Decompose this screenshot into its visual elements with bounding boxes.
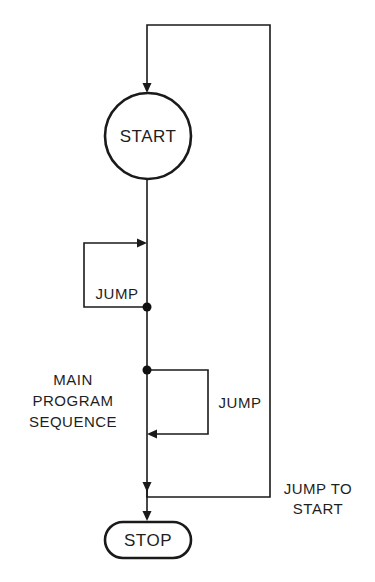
- start-label: START: [120, 127, 177, 146]
- backward-jump-arrow-icon: [137, 239, 147, 248]
- forward-jump-edge: [147, 370, 208, 434]
- jump-to-start-line-2: START: [293, 500, 343, 517]
- main-sequence-line-2: PROGRAM: [32, 392, 113, 409]
- arrow-into-stop-icon: [143, 511, 152, 521]
- stop-label: STOP: [124, 531, 172, 550]
- backward-jump-label: JUMP: [96, 285, 139, 302]
- main-sequence-line-3: SEQUENCE: [29, 413, 117, 430]
- forward-jump-arrow-icon: [147, 430, 157, 439]
- flow-diagram: START JUMP JUMP MAIN PROGRAM SEQUENCE JU…: [0, 0, 375, 582]
- arrow-into-start-icon: [143, 83, 152, 93]
- stop-node: STOP: [105, 522, 191, 558]
- jump-origin-dot-2: [143, 366, 152, 375]
- jump-to-start-line-1: JUMP TO: [284, 480, 353, 497]
- forward-jump-label: JUMP: [219, 394, 262, 411]
- jump-origin-dot-1: [143, 303, 152, 312]
- sequence-arrow-icon: [143, 482, 152, 492]
- main-sequence-label: MAIN PROGRAM SEQUENCE: [29, 371, 117, 430]
- start-node: START: [105, 93, 191, 179]
- main-sequence-line-1: MAIN: [53, 371, 93, 388]
- jump-to-start-label: JUMP TO START: [284, 480, 353, 517]
